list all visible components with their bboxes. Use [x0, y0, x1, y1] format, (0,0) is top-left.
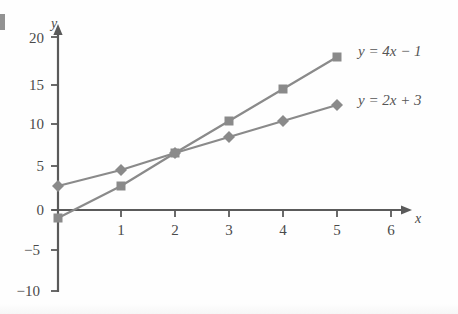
x-tick-label-2: 2 — [163, 223, 187, 238]
series-1-marker — [225, 117, 234, 126]
x-axis-label: x — [415, 212, 421, 226]
x-tick-label-4: 4 — [271, 223, 295, 238]
y-tick-label-5: 5 — [0, 159, 44, 174]
series-1-path — [58, 57, 337, 218]
series-label-line1: y = 4x − 1 — [358, 44, 422, 59]
series-2-marker — [331, 99, 343, 111]
series-2-path — [58, 105, 337, 186]
series-1-marker — [54, 214, 63, 223]
y-tick-label-10: 10 — [0, 117, 44, 132]
y-tick-label-15: 15 — [0, 78, 44, 93]
y-tick-label-neg10: −10 — [0, 284, 40, 299]
page-edge-shading — [0, 304, 458, 314]
x-tick-label-3: 3 — [217, 223, 241, 238]
y-axis-label: y — [51, 17, 57, 31]
x-tick-marks — [121, 210, 391, 217]
series-label-line2: y = 2x + 3 — [358, 93, 422, 108]
series-2-marker — [115, 164, 127, 176]
x-tick-label-1: 1 — [109, 223, 133, 238]
series-2-marker — [223, 131, 235, 143]
series-line-4x-minus-1 — [54, 53, 342, 223]
series-1-marker — [279, 85, 288, 94]
series-1-marker — [333, 53, 342, 62]
y-tick-label-neg5: −5 — [0, 243, 40, 258]
x-tick-label-5: 5 — [325, 223, 349, 238]
chart-figure: 20 15 10 5 0 −5 −10 1 2 3 4 5 6 y x y = … — [0, 0, 458, 314]
series-1-marker — [117, 182, 126, 191]
series-2-marker — [277, 115, 289, 127]
x-axis-arrowhead — [401, 206, 412, 215]
y-tick-label-20: 20 — [0, 31, 44, 46]
axis-group — [52, 24, 412, 292]
y-tick-label-0: 0 — [0, 203, 44, 218]
series-line-2x-plus-3 — [52, 99, 343, 192]
series-2-marker — [52, 180, 64, 192]
x-tick-label-6: 6 — [379, 223, 403, 238]
